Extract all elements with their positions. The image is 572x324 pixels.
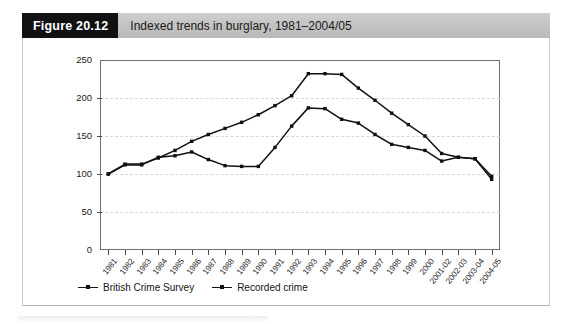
- legend-item: Recorded crime: [212, 283, 308, 293]
- figure-container: Figure 20.12 Indexed trends in burglary,…: [0, 0, 572, 324]
- page-edge-artifact: [18, 316, 268, 323]
- legend-line-marker-icon: [78, 284, 98, 292]
- legend-item: British Crime Survey: [78, 283, 194, 293]
- figure-body-panel: [22, 38, 550, 306]
- figure-caption: Indexed trends in burglary, 1981–2004/05: [118, 13, 351, 38]
- legend-label: Recorded crime: [237, 283, 308, 293]
- chart-legend: British Crime SurveyRecorded crime: [78, 283, 308, 293]
- legend-label: British Crime Survey: [103, 283, 194, 293]
- figure-header: Figure 20.12 Indexed trends in burglary,…: [22, 13, 550, 38]
- figure-number-label: Figure 20.12: [22, 13, 118, 38]
- legend-line-marker-icon: [212, 284, 232, 292]
